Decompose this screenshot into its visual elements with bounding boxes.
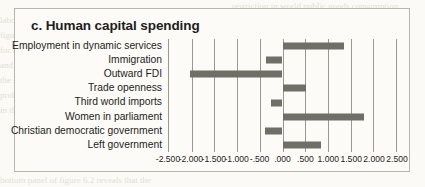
bar bbox=[283, 43, 344, 50]
bar bbox=[283, 113, 365, 120]
tick-label: -.500 bbox=[250, 155, 270, 164]
bar-series bbox=[169, 39, 396, 152]
tick-label: 2.000 bbox=[363, 155, 385, 164]
category-label: Trade openness bbox=[15, 81, 167, 95]
bar bbox=[283, 141, 321, 148]
bar bbox=[283, 85, 307, 92]
value-axis-tick-labels: -2.500-2.000-1.500-1.000-.500.000.5001.0… bbox=[168, 155, 397, 169]
bar-row bbox=[169, 138, 396, 152]
bar-row bbox=[169, 39, 396, 53]
plot-area bbox=[168, 39, 397, 152]
chart-plot-wrapper: Employment in dynamic servicesImmigratio… bbox=[15, 39, 409, 171]
tick-label: 2.500 bbox=[386, 155, 408, 164]
category-label: Left government bbox=[15, 138, 167, 152]
bar-row bbox=[169, 81, 396, 95]
tick-label: -2.500 bbox=[156, 155, 180, 164]
category-label: Immigration bbox=[15, 53, 167, 67]
bar bbox=[266, 57, 283, 64]
category-label: Women in parliament bbox=[15, 110, 167, 124]
bar bbox=[190, 71, 283, 78]
bar-row bbox=[169, 67, 396, 81]
chart-title: c. Human capital spending bbox=[31, 18, 200, 33]
bar-row bbox=[169, 53, 396, 67]
category-label: Outward FDI bbox=[15, 67, 167, 81]
figure-container: c. Human capital spending Employment in … bbox=[14, 8, 410, 172]
tick-label: 1.500 bbox=[340, 155, 362, 164]
tick-label: 1.000 bbox=[318, 155, 340, 164]
bar bbox=[265, 127, 283, 134]
category-axis: Employment in dynamic servicesImmigratio… bbox=[15, 39, 167, 152]
bar-row bbox=[169, 96, 396, 110]
bar bbox=[271, 99, 283, 106]
tick-label: .500 bbox=[297, 155, 314, 164]
category-label: Employment in dynamic services bbox=[15, 39, 167, 53]
category-label: Third world imports bbox=[15, 96, 167, 110]
ghost-text-line: bottom panel of figure 6.2 reveals that … bbox=[0, 175, 151, 185]
tick-label: -1.000 bbox=[225, 155, 249, 164]
tick-label: -1.500 bbox=[202, 155, 226, 164]
category-label: Christian democratic government bbox=[15, 124, 167, 138]
bar-row bbox=[169, 124, 396, 138]
bar-row bbox=[169, 110, 396, 124]
tick-label: -2.000 bbox=[179, 155, 203, 164]
tick-label: .000 bbox=[274, 155, 291, 164]
